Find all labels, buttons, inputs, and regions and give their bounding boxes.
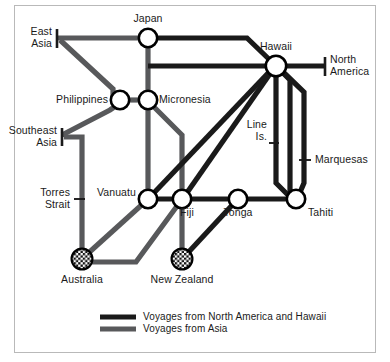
label-vanuatu: Vanuatu bbox=[82, 187, 136, 199]
label-north-america: North America bbox=[330, 54, 388, 77]
label-new-zealand: New Zealand bbox=[140, 274, 224, 286]
route-australia-vanuatu bbox=[84, 201, 146, 257]
label-fiji: Fiji bbox=[180, 207, 210, 219]
label-marquesas: Marquesas bbox=[315, 154, 385, 166]
label-micronesia: Micronesia bbox=[159, 94, 229, 106]
route-southeast-asia-philippines bbox=[62, 103, 120, 135]
legend-label-north-america-hawaii: Voyages from North America and Hawaii bbox=[143, 311, 326, 322]
label-australia: Australia bbox=[51, 274, 113, 286]
label-japan: Japan bbox=[123, 13, 173, 25]
node-tahiti[interactable] bbox=[287, 190, 305, 208]
node-micronesia[interactable] bbox=[139, 91, 157, 109]
label-southeast-asia: Southeast Asia bbox=[0, 125, 57, 148]
label-torres-strait: Torres Strait bbox=[0, 187, 70, 210]
node-australia[interactable] bbox=[72, 249, 93, 270]
label-east-asia: East Asia bbox=[0, 26, 52, 49]
asia-route-group bbox=[57, 38, 182, 262]
route-hawaii-tahiti-mid bbox=[279, 69, 290, 197]
legend-label-asia: Voyages from Asia bbox=[143, 323, 228, 334]
legend-swatch-group bbox=[100, 317, 136, 329]
node-philippines[interactable] bbox=[111, 91, 129, 109]
label-tonga: Tonga bbox=[216, 207, 260, 219]
node-vanuatu[interactable] bbox=[139, 190, 157, 208]
label-philippines: Philippines bbox=[42, 94, 108, 106]
label-tahiti: Tahiti bbox=[308, 207, 348, 219]
node-japan[interactable] bbox=[139, 29, 157, 47]
route-east-asia-philippines bbox=[60, 40, 120, 100]
label-hawaii: Hawaii bbox=[252, 41, 300, 53]
america-hawaii-route-group bbox=[148, 38, 325, 257]
node-hawaii[interactable] bbox=[266, 56, 286, 76]
node-newzealand[interactable] bbox=[172, 249, 193, 270]
label-line-is: Line Is. bbox=[222, 119, 267, 142]
route-micronesia-fiji bbox=[150, 103, 182, 199]
